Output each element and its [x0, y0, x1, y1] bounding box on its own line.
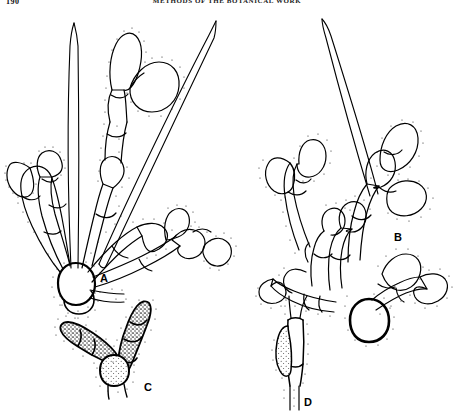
figure-label-a: A [100, 273, 108, 284]
running-head-title: METHODS OF THE BOTANICAL WORK [0, 0, 454, 5]
illustration-plate: 190 METHODS OF THE BOTANICAL WORK [0, 0, 454, 418]
running-head: 190 METHODS OF THE BOTANICAL WORK [0, 0, 454, 9]
figure-label-d: D [304, 397, 312, 408]
line-drawing-canvas [0, 0, 454, 418]
paper-background [0, 0, 454, 418]
figure-label-b: B [394, 232, 402, 243]
figure-c-basal-cell [100, 355, 129, 386]
figure-label-c: C [144, 382, 152, 393]
